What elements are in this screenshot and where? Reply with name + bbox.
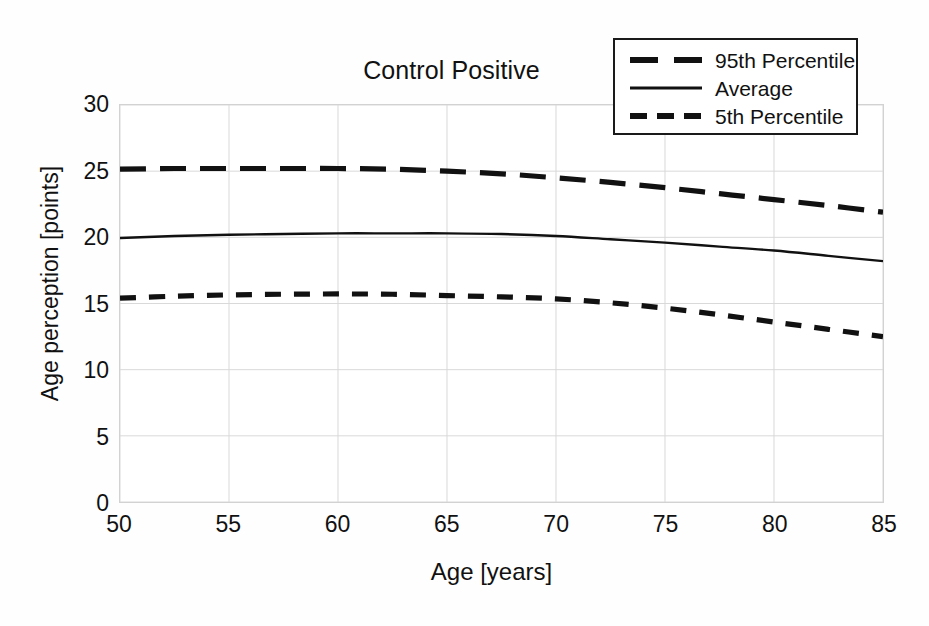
legend-item-2[interactable]: 5th Percentile [615, 102, 856, 130]
x-tick-label-50: 50 [84, 513, 154, 536]
x-tick-label-85: 85 [849, 513, 919, 536]
series-line-0 [120, 168, 883, 212]
x-axis-tick-labels: 5055606570758085 [119, 513, 884, 543]
x-tick-label-75: 75 [630, 513, 700, 536]
series-line-2 [120, 294, 883, 337]
x-tick-label-55: 55 [193, 513, 263, 536]
y-tick-label-0: 0 [63, 492, 109, 515]
x-tick-label-65: 65 [412, 513, 482, 536]
y-axis-tick-labels: 051015202530 [60, 104, 109, 503]
series-line-1 [120, 233, 883, 261]
y-tick-label-15: 15 [63, 293, 109, 316]
chart-legend: 95th PercentileAverage5th Percentile [613, 38, 858, 135]
plot-area [119, 104, 884, 503]
chart-figure: Control Positive Age perception [points]… [0, 0, 929, 626]
short-dash-swatch [629, 106, 703, 126]
legend-item-0[interactable]: 95th Percentile [615, 46, 856, 74]
y-tick-label-25: 25 [63, 160, 109, 183]
y-tick-label-5: 5 [63, 426, 109, 449]
legend-label: 5th Percentile [715, 106, 843, 127]
x-tick-label-80: 80 [740, 513, 810, 536]
legend-item-1[interactable]: Average [615, 74, 856, 102]
long-dash-swatch [629, 50, 703, 70]
legend-label: 95th Percentile [715, 50, 855, 71]
y-tick-label-20: 20 [63, 226, 109, 249]
data-series-layer [120, 105, 883, 502]
x-tick-label-70: 70 [521, 513, 591, 536]
y-tick-label-30: 30 [63, 93, 109, 116]
x-axis-title: Age [years] [109, 558, 874, 586]
x-tick-label-60: 60 [303, 513, 373, 536]
solid-line-swatch [629, 78, 703, 98]
legend-label: Average [715, 78, 793, 99]
y-tick-label-10: 10 [63, 359, 109, 382]
